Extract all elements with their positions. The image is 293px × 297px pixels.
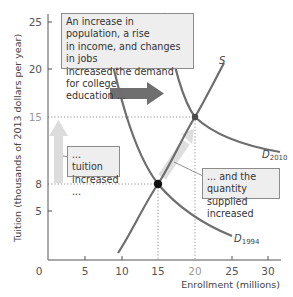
- x-tick-15: 15: [151, 265, 164, 277]
- demand-note-line-1: An increase in population, a rise: [66, 16, 189, 41]
- quantity-note-line-2: supplied increased: [207, 196, 275, 221]
- quantity-note-line-1: ... and the quantity: [207, 171, 275, 196]
- equilibrium-point-2010: [192, 114, 198, 120]
- equilibrium-point-1994: [154, 180, 162, 188]
- y-tick-15: 15: [29, 111, 42, 123]
- demand-note-line-3: increased the demand for college: [66, 66, 189, 91]
- tuition-note-line-2: increased ...: [72, 174, 115, 199]
- x-tick-10: 10: [115, 265, 128, 277]
- tuition-increased-note: ... tuition increased ...: [67, 146, 120, 177]
- demand-1994-label: D1994: [234, 233, 260, 246]
- guide-lines: [48, 117, 195, 260]
- y-tick-5: 5: [35, 205, 42, 217]
- supply-label: S: [219, 55, 226, 66]
- x-tick-25: 25: [225, 265, 238, 277]
- x-tick-30: 30: [261, 265, 274, 277]
- x-tick-5: 5: [82, 265, 89, 277]
- quantity-note-leader: [174, 162, 203, 176]
- demand-note-line-4: education ...: [66, 90, 189, 102]
- y-tick-20: 20: [29, 63, 42, 75]
- demand-note-line-2: in income, and changes in jobs: [66, 41, 189, 66]
- x-axis-title: Enrollment (millions): [181, 279, 280, 290]
- x-tick-20: 20: [188, 265, 201, 277]
- y-tick-8: 8: [35, 178, 42, 190]
- demand-increase-note: An increase in population, a rise in inc…: [61, 13, 194, 69]
- y-tick-25: 25: [29, 16, 42, 28]
- tuition-note-line-1: ... tuition: [72, 149, 115, 174]
- tuition-up-arrow: [49, 120, 68, 183]
- y-axis-title: Tuition (thousands of 2013 dollars per y…: [12, 34, 23, 243]
- origin-label: 0: [36, 265, 43, 277]
- quantity-supplied-note: ... and the quantity supplied increased: [202, 168, 280, 199]
